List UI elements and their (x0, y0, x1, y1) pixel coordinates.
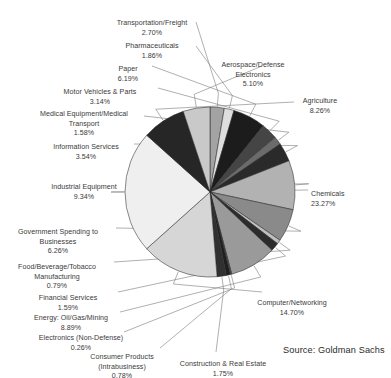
slice-label-percent: 8.26% (289, 107, 351, 116)
slice-label-information-services: Information Services 3.54% (38, 134, 134, 172)
slice-label-text: Food/Beverage/Tobacco Manufacturing (18, 263, 96, 280)
slice-label-consumer-products: Consumer Products (Intrabusiness) 0.78% (80, 344, 164, 378)
slice-label-text: Electronics (Non-Defense) (39, 334, 123, 342)
slice-label-percent: 3.54% (38, 153, 134, 162)
pie-chart-figure: Transportation/Freight 2.70% Pharmaceuti… (0, 0, 391, 378)
slice-label-text: Pharmaceuticals (125, 42, 178, 50)
pie-wedges-group (125, 107, 295, 277)
slice-label-percent: 0.78% (80, 372, 164, 378)
slice-label-text: Financial Services (39, 294, 97, 302)
slice-label-text: Motor Vehicles & Parts (64, 88, 137, 96)
slice-label-text: Medical Equipment/Medical Transport (40, 110, 128, 127)
slice-label-computer-networking: Computer/Networking 14.70% (246, 290, 338, 328)
slice-label-text: Aerospace/Defense Electronics (221, 61, 284, 78)
slice-label-text: Government Spending to Businesses (18, 228, 98, 245)
slice-label-text: Information Services (53, 143, 119, 151)
slice-label-text: Computer/Networking (257, 299, 327, 307)
slice-label-percent: 23.27% (311, 200, 383, 209)
slice-label-text: Energy: Oil/Gas/Mining (34, 314, 108, 322)
slice-label-text: Chemicals (311, 190, 345, 198)
slice-label-text: Agriculture (303, 97, 337, 105)
slice-label-text: Industrial Equipment (51, 183, 117, 191)
slice-label-text: Construction & Real Estate (180, 360, 266, 368)
slice-label-construction: Construction & Real Estate 1.75% (168, 351, 278, 378)
slice-label-text: Paper (118, 65, 137, 73)
slice-label-text: Transportation/Freight (117, 19, 188, 27)
slice-label-percent: 1.75% (168, 370, 278, 378)
slice-label-percent: 9.34% (36, 193, 132, 202)
slice-label-industrial-equipment: Industrial Equipment 9.34% (36, 174, 132, 212)
slice-label-text: Consumer Products (Intrabusiness) (90, 353, 154, 370)
slice-label-percent: 14.70% (246, 309, 338, 318)
slice-label-aerospace-defense: Aerospace/Defense Electronics 5.10% (203, 52, 303, 99)
slice-label-percent: 5.10% (203, 80, 303, 89)
slice-leader-line (124, 275, 235, 332)
source-note: Source: Goldman Sachs (283, 345, 385, 355)
slice-label-chemicals: Chemicals 23.27% (311, 181, 383, 219)
